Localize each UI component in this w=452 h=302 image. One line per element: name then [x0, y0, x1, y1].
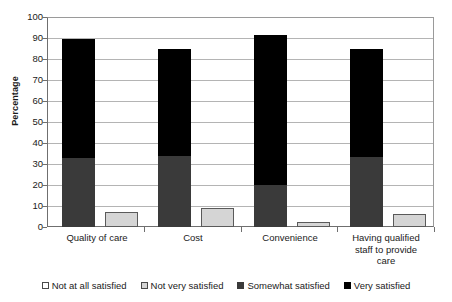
legend-label: Not at all satisfied — [52, 280, 127, 291]
bar-not-very-satisfied-quality-of-care — [105, 212, 138, 227]
legend-item-very-satisfied: Very satisfied — [344, 280, 411, 291]
x-axis-label-line: Quality of care — [50, 232, 144, 244]
y-tick-label-0: 0 — [7, 222, 43, 232]
y-tick-label-40: 40 — [7, 138, 43, 148]
bar-very-satisfied-quality-of-care — [62, 39, 95, 161]
legend-item-not-very-satisfied: Not very satisfied — [141, 280, 224, 291]
x-axis-separator-4 — [434, 227, 435, 232]
y-tick-label-30: 30 — [7, 159, 43, 169]
bar-somewhat-satisfied-convenience — [254, 185, 287, 227]
y-tick-label-80: 80 — [7, 54, 43, 64]
x-axis-separator-1 — [144, 227, 145, 232]
legend-item-not-at-all-satisfied: Not at all satisfied — [42, 280, 127, 291]
legend-item-somewhat-satisfied: Somewhat satisfied — [237, 280, 329, 291]
bar-very-satisfied-cost — [158, 49, 191, 159]
x-axis-label-qualified-staff: Having qualified staff to provide care — [339, 232, 433, 267]
bar-very-satisfied-qualified-staff — [350, 49, 383, 158]
x-axis-label-line: Cost — [146, 232, 240, 244]
bar-not-very-satisfied-cost — [201, 208, 234, 227]
y-tick-label-100: 100 — [7, 12, 43, 22]
legend-swatch-icon-very-satisfied — [344, 282, 351, 289]
x-axis-label-line: Having qualified — [339, 232, 433, 244]
x-axis-label-convenience: Convenience — [243, 232, 337, 244]
legend-label: Not very satisfied — [151, 280, 224, 291]
legend-label: Very satisfied — [354, 280, 411, 291]
bar-somewhat-satisfied-qualified-staff — [350, 157, 383, 227]
x-axis-separator-3 — [337, 227, 338, 232]
y-tick-mark-0 — [42, 227, 47, 228]
x-axis-separator-2 — [241, 227, 242, 232]
y-tick-label-10: 10 — [7, 201, 43, 211]
x-axis-label-line: staff to provide — [339, 244, 433, 256]
bar-not-very-satisfied-qualified-staff — [393, 214, 426, 227]
stacked-bar-chart: Percentage 100 90 80 70 60 50 40 30 20 1… — [0, 0, 452, 302]
x-axis-label-line: Convenience — [243, 232, 337, 244]
legend-swatch-icon-not-at-all-satisfied — [42, 282, 49, 289]
x-axis-label-line: care — [339, 255, 433, 267]
bar-very-satisfied-convenience — [254, 35, 287, 186]
x-axis-label-quality-of-care: Quality of care — [50, 232, 144, 244]
y-tick-label-60: 60 — [7, 96, 43, 106]
chart-legend: Not at all satisfied Not very satisfied … — [0, 280, 452, 291]
bar-somewhat-satisfied-quality-of-care — [62, 158, 95, 227]
plot-area — [47, 17, 434, 227]
legend-swatch-icon-not-very-satisfied — [141, 282, 148, 289]
x-axis-label-cost: Cost — [146, 232, 240, 244]
y-tick-label-50: 50 — [7, 117, 43, 127]
y-tick-label-20: 20 — [7, 180, 43, 190]
gridline-90 — [48, 38, 433, 39]
bar-somewhat-satisfied-cost — [158, 156, 191, 227]
legend-label: Somewhat satisfied — [247, 280, 329, 291]
legend-swatch-icon-somewhat-satisfied — [237, 282, 244, 289]
y-tick-label-90: 90 — [7, 33, 43, 43]
bar-not-very-satisfied-convenience — [297, 222, 330, 227]
y-tick-label-70: 70 — [7, 75, 43, 85]
